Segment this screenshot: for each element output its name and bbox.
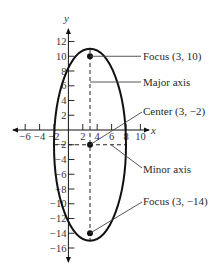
y-tick-label: −14 [50, 228, 67, 239]
callout-focus-top: Focus (3, 10) [143, 50, 202, 63]
y-tick-label: −4 [55, 154, 67, 165]
y-tick-label: −12 [50, 213, 66, 224]
y-tick-label: 4 [61, 95, 67, 106]
x-tick-label: −6 [20, 131, 31, 142]
x-axis-label: x [150, 124, 156, 136]
callout-major-axis: Major axis [143, 76, 190, 88]
x-tick-label: 10 [135, 131, 146, 142]
leader-focus-bottom [90, 202, 142, 233]
diagram-canvas: x y −6−4−2246810 12108642−2−4−6−8−10−12−… [0, 0, 216, 275]
ellipse-diagram: x y −6−4−2246810 12108642−2−4−6−8−10−12−… [0, 0, 216, 275]
y-tick-label: −10 [50, 198, 66, 209]
y-tick-label: −16 [50, 243, 66, 254]
y-axis-label: y [63, 12, 69, 24]
x-tick-label: 2 [80, 131, 85, 142]
y-tick-label: 12 [56, 36, 67, 47]
x-tick-label: −4 [34, 131, 46, 142]
callout-focus-bottom: Focus (3, −14) [143, 195, 208, 208]
y-tick-label: 2 [61, 110, 66, 121]
callout-minor-axis: Minor axis [143, 163, 191, 175]
callout-center: Center (3, −2) [143, 105, 205, 118]
y-tick-label: 10 [56, 51, 67, 62]
